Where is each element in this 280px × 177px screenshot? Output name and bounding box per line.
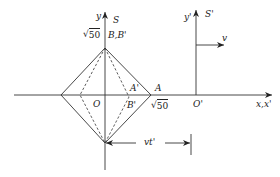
diagram-canvas xyxy=(0,0,280,177)
solid-diamond xyxy=(61,48,151,143)
point-a-prime-label: A' xyxy=(130,84,139,93)
x-intercept-label: √50 xyxy=(151,101,168,110)
point-b-label: B,B' xyxy=(108,31,127,40)
x-axis-label: x,x' xyxy=(256,100,272,109)
y-intercept-value: 50 xyxy=(89,28,100,40)
x-intercept-value: 50 xyxy=(157,99,168,111)
dimension-label: vt' xyxy=(144,138,155,147)
point-b-prime-label: B' xyxy=(127,101,136,110)
y-axis-label: y xyxy=(96,12,101,21)
relativity-diagram: y S √50 B,B' O A' A B' √50 y' S' v O' x,… xyxy=(0,0,280,177)
velocity-label: v xyxy=(222,34,227,43)
dashed-right-edge xyxy=(105,48,129,143)
origin-prime-label: O' xyxy=(193,100,203,109)
origin-label: O xyxy=(93,100,100,109)
frame-s-label: S xyxy=(113,16,119,25)
point-a-label: A xyxy=(155,84,162,93)
y-prime-axis-label: y' xyxy=(184,13,192,22)
y-intercept-label: √50 xyxy=(83,30,100,39)
frame-s-prime-label: S' xyxy=(205,10,214,19)
